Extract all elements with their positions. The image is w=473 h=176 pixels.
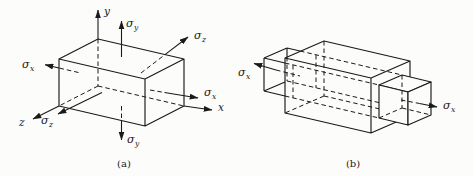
x-axis-label: x — [218, 101, 224, 113]
caption-a: (a) — [117, 158, 131, 169]
bar-right-stub-front-face — [379, 85, 408, 125]
y-axis-label: y — [103, 5, 111, 17]
stress-figure-svg: y x z σy σy σx σx σz — [0, 0, 473, 176]
caption-b: (b) — [346, 158, 360, 169]
z-axis-label: z — [18, 116, 25, 128]
figure-page: y x z σy σy σx σx σz — [0, 0, 473, 176]
